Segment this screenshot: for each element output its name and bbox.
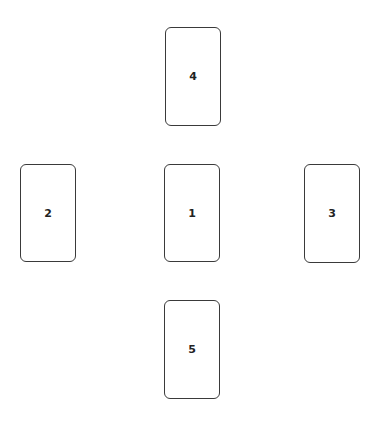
card-spread-diagram: 4 2 1 3 5 xyxy=(0,0,390,421)
card-position-5: 5 xyxy=(164,300,220,399)
card-position-2: 2 xyxy=(20,164,76,262)
card-position-3-label: 3 xyxy=(328,208,336,219)
card-position-4-label: 4 xyxy=(189,71,197,82)
card-position-1-label: 1 xyxy=(188,208,196,219)
card-position-2-label: 2 xyxy=(44,208,52,219)
card-position-1: 1 xyxy=(164,164,220,262)
card-position-4: 4 xyxy=(165,27,221,126)
card-position-5-label: 5 xyxy=(188,344,196,355)
card-position-3: 3 xyxy=(304,164,360,263)
